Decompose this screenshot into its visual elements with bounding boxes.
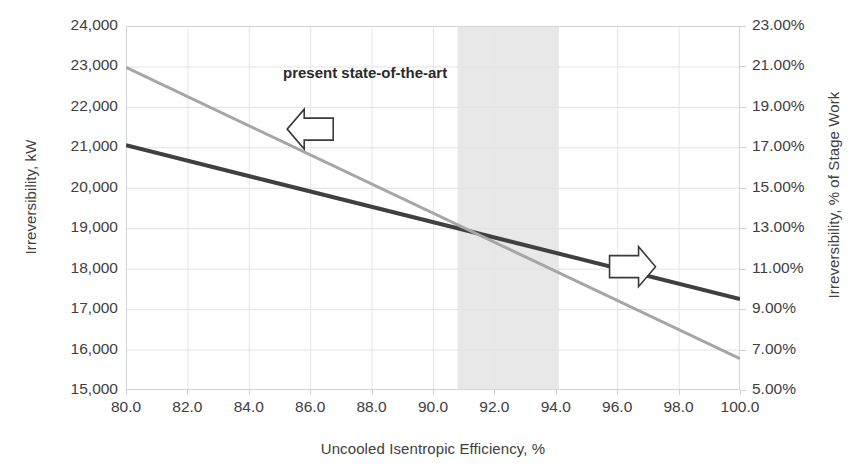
y-axis-left-tick-3: 18,000: [44, 259, 118, 277]
x-axis-tick-10: 100.0: [705, 398, 775, 416]
y-axis-left-tick-5: 20,000: [44, 178, 118, 196]
x-axis-tick-7: 94.0: [521, 398, 591, 416]
y-axis-right-tickmark-7: [740, 107, 746, 108]
x-axis-tick-3: 86.0: [275, 398, 345, 416]
y-axis-left-tick-9: 24,000: [44, 16, 118, 34]
y-axis-right-tick-1: 7.00%: [752, 340, 832, 358]
x-axis-tickmark-6: [494, 390, 495, 395]
y-axis-right-tickmark-6: [740, 147, 746, 148]
y-axis-left-tick-1: 16,000: [44, 340, 118, 358]
state-of-the-art-band: [458, 26, 559, 390]
y-axis-left-tick-2: 17,000: [44, 299, 118, 317]
x-axis-tickmark-1: [187, 390, 188, 395]
y-axis-right-tick-3: 11.00%: [752, 259, 832, 277]
y-axis-right-tickmark-5: [740, 188, 746, 189]
y-axis-right-tickmark-2: [740, 309, 746, 310]
y-axis-right-tick-9: 23.00%: [752, 16, 832, 34]
y-axis-left-tick-6: 21,000: [44, 137, 118, 155]
y-axis-right-tickmark-1: [740, 350, 746, 351]
x-axis-tickmark-4: [372, 390, 373, 395]
chart-container: Irreversibility, kW Irreversibility, % o…: [0, 0, 853, 473]
x-axis-tick-4: 88.0: [337, 398, 407, 416]
x-axis-tickmark-8: [617, 390, 618, 395]
y-axis-left-tick-0: 15,000: [44, 380, 118, 398]
y-axis-right-tickmark-3: [740, 269, 746, 270]
y-axis-right-tick-7: 19.00%: [752, 97, 832, 115]
x-axis-tick-2: 84.0: [214, 398, 284, 416]
y-axis-right-tickmark-9: [740, 26, 746, 27]
x-axis-tick-6: 92.0: [459, 398, 529, 416]
y-axis-left-tick-4: 19,000: [44, 218, 118, 236]
x-axis-tickmark-2: [249, 390, 250, 395]
y-axis-left-tick-8: 23,000: [44, 56, 118, 74]
y-axis-right-tick-0: 5.00%: [752, 380, 832, 398]
x-axis-tick-8: 96.0: [582, 398, 652, 416]
x-axis-tickmark-7: [556, 390, 557, 395]
y-axis-right-tick-2: 9.00%: [752, 299, 832, 317]
x-axis-tickmark-0: [126, 390, 127, 395]
x-axis-tick-9: 98.0: [644, 398, 714, 416]
x-axis-tick-0: 80.0: [91, 398, 161, 416]
x-axis-tickmark-9: [679, 390, 680, 395]
band-annotation-label: present state-of-the-art: [283, 64, 447, 81]
y-axis-right-tick-5: 15.00%: [752, 178, 832, 196]
y-axis-right-tick-6: 17.00%: [752, 137, 832, 155]
y-axis-right-tick-4: 13.00%: [752, 218, 832, 236]
y-axis-right-tickmark-8: [740, 66, 746, 67]
x-axis-tickmark-3: [310, 390, 311, 395]
x-axis-tick-1: 82.0: [152, 398, 222, 416]
x-axis-tickmark-10: [740, 390, 741, 395]
y-axis-right-tickmark-4: [740, 228, 746, 229]
x-axis-tickmark-5: [433, 390, 434, 395]
y-axis-left-title: Irreversibility, kW: [22, 2, 44, 392]
x-axis-tick-5: 90.0: [398, 398, 468, 416]
y-axis-left-tick-7: 22,000: [44, 97, 118, 115]
y-axis-right-tick-8: 21.00%: [752, 56, 832, 74]
x-axis-title: Uncooled Isentropic Efficiency, %: [126, 440, 740, 457]
